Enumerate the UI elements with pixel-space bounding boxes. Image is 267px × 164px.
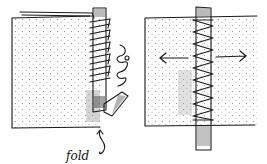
fold-arrow [99,131,105,154]
sewing-illustration: fold [0,0,267,164]
loose-thread [117,45,127,86]
fold-label: fold [65,149,90,163]
illustration-svg: fold [0,0,267,164]
right-panel [145,7,257,150]
left-panel: fold [12,8,129,163]
